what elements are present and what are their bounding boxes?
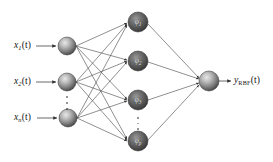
input-label-xn: xn(t) (14, 113, 31, 123)
hidden-node-phi1 (128, 12, 148, 32)
output-label-yrbf: yRBF(t) (234, 76, 260, 86)
network-graphic (0, 0, 273, 162)
output-node (199, 71, 219, 91)
edges-input-to-hidden (76, 23, 127, 141)
hidden-node-phip (128, 131, 148, 151)
rbf-network-diagram: x1(t) x2(t) xn(t) yRBF(t) φ1 φ2 φ3 φp (0, 0, 273, 162)
input-label-x2: x2(t) (14, 77, 31, 87)
edges-hidden-to-output (148, 24, 199, 140)
input-layer-ellipsis (66, 96, 69, 110)
input-node-x1 (58, 37, 76, 55)
hidden-layer-ellipsis (137, 117, 140, 130)
input-entry-arrows (36, 46, 57, 118)
input-node-x2 (58, 73, 76, 91)
hidden-node-phi3 (128, 90, 148, 110)
input-node-xn (59, 109, 77, 127)
hidden-node-phi2 (128, 51, 148, 71)
input-label-x1: x1(t) (14, 41, 31, 51)
